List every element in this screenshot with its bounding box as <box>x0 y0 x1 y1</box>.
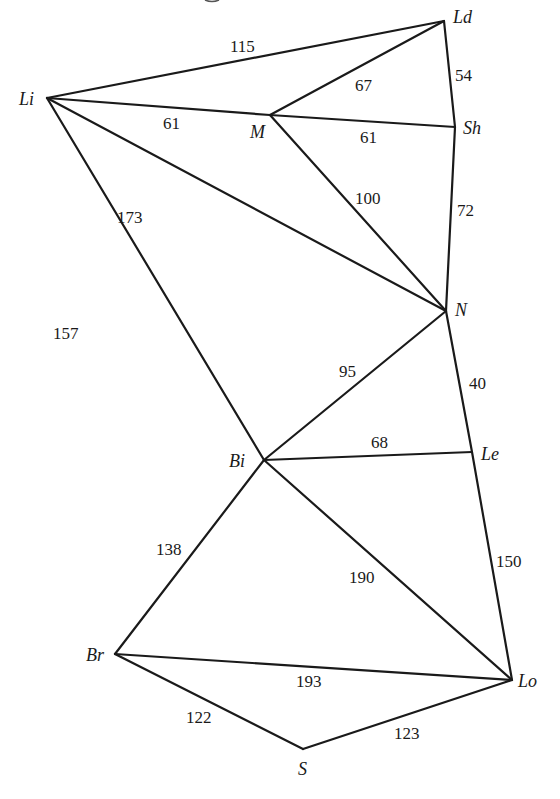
edge-li-ld <box>47 21 444 98</box>
edge-weight-bi-lo: 190 <box>349 568 375 587</box>
node-label-le: Le <box>480 444 499 464</box>
edge-weight-br-s: 122 <box>186 708 212 727</box>
edge-weight-m-sh: 61 <box>360 128 377 147</box>
edge-weight-li-n: 173 <box>117 208 143 227</box>
edge-weight-ld-sh: 54 <box>455 66 473 85</box>
edge-bi-le <box>264 452 472 460</box>
node-label-li: Li <box>18 89 34 109</box>
edges-layer <box>47 21 512 749</box>
edge-m-ld <box>270 21 444 115</box>
node-label-bi: Bi <box>229 451 245 471</box>
edge-m-n <box>270 115 446 311</box>
node-label-m: M <box>249 122 266 142</box>
node-label-ld: Ld <box>452 7 473 27</box>
node-label-lo: Lo <box>517 671 537 691</box>
edge-m-sh <box>270 115 455 127</box>
edge-weight-m-n: 100 <box>355 189 381 208</box>
edge-weight-m-ld: 67 <box>355 76 373 95</box>
node-label-s: S <box>298 759 307 779</box>
edge-li-m <box>47 98 270 115</box>
edge-weight-li-ld: 115 <box>230 37 255 56</box>
edge-li-bi <box>47 98 264 460</box>
edge-weight-le-lo: 150 <box>496 552 522 571</box>
edge-weight-li-m: 61 <box>163 114 180 133</box>
crop-artifact <box>205 0 219 2</box>
edge-weights-layer: 1156117315767611005472954068138190150193… <box>53 37 522 743</box>
edge-bi-br <box>115 460 264 654</box>
edge-weight-n-le: 40 <box>469 374 486 393</box>
node-label-n: N <box>454 300 468 320</box>
edge-weight-br-lo: 193 <box>296 672 322 691</box>
edge-li-n <box>47 98 446 311</box>
edge-br-s <box>115 654 303 749</box>
edge-weight-li-bi: 157 <box>53 324 79 343</box>
edge-weight-bi-le: 68 <box>371 433 388 452</box>
edge-ld-sh <box>444 21 455 127</box>
edge-n-bi <box>264 311 446 460</box>
node-label-sh: Sh <box>463 118 481 138</box>
edge-sh-n <box>446 127 455 311</box>
edge-weight-bi-br: 138 <box>156 540 182 559</box>
edge-weight-s-lo: 123 <box>394 724 420 743</box>
edge-weight-sh-n: 72 <box>457 201 474 220</box>
node-label-br: Br <box>86 645 105 665</box>
edge-bi-lo <box>264 460 512 680</box>
weighted-graph-diagram: 1156117315767611005472954068138190150193… <box>0 0 560 799</box>
edge-weight-n-bi: 95 <box>339 362 356 381</box>
